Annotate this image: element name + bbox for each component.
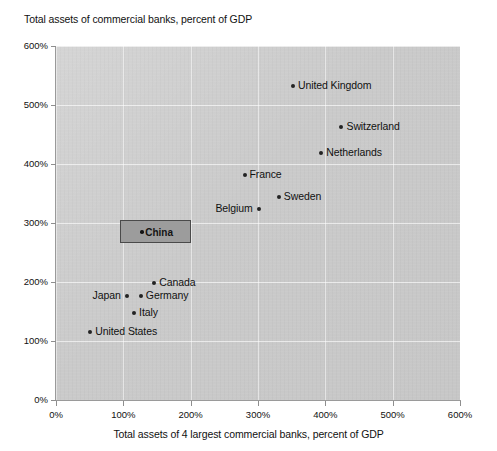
y-axis-tick-label: 300% xyxy=(4,217,48,228)
y-axis-tick-label: 400% xyxy=(4,158,48,169)
data-point-belgium xyxy=(257,207,261,211)
gridline-vertical xyxy=(393,46,394,400)
x-axis-tick-label: 600% xyxy=(430,409,490,420)
data-point-united-states xyxy=(88,330,92,334)
data-label-united-states: United States xyxy=(95,325,157,337)
data-label-united-kingdom: United Kingdom xyxy=(298,79,371,91)
x-axis-tick-label: 0% xyxy=(26,409,86,420)
plot-area: United KingdomSwitzerlandNetherlandsFran… xyxy=(56,46,460,400)
data-label-japan: Japan xyxy=(93,289,121,301)
data-label-france: France xyxy=(250,168,282,180)
data-label-germany: Germany xyxy=(146,289,188,301)
gridline-vertical xyxy=(56,46,57,400)
x-axis-tick xyxy=(460,401,461,406)
y-axis-tick xyxy=(51,105,56,106)
y-axis-tick xyxy=(51,223,56,224)
x-axis-tick-label: 400% xyxy=(295,409,355,420)
data-label-switzerland: Switzerland xyxy=(346,120,399,132)
data-point-china xyxy=(140,230,144,234)
x-axis-tick-label: 100% xyxy=(93,409,153,420)
data-label-sweden: Sweden xyxy=(284,190,321,202)
data-label-netherlands: Netherlands xyxy=(326,146,382,158)
x-axis-tick xyxy=(325,401,326,406)
data-point-france xyxy=(243,173,247,177)
data-label-belgium: Belgium xyxy=(215,202,252,214)
x-axis-tick xyxy=(258,401,259,406)
data-point-netherlands xyxy=(319,151,323,155)
x-axis-title: Total assets of 4 largest commercial ban… xyxy=(0,428,497,440)
data-point-japan xyxy=(125,294,129,298)
data-point-united-kingdom xyxy=(291,84,295,88)
gridline-vertical xyxy=(258,46,259,400)
y-axis-tick-label: 100% xyxy=(4,335,48,346)
data-label-italy: Italy xyxy=(139,306,158,318)
y-axis-tick xyxy=(51,341,56,342)
data-point-switzerland xyxy=(339,125,343,129)
data-label-canada: Canada xyxy=(159,276,195,288)
data-point-sweden xyxy=(277,195,281,199)
data-point-canada xyxy=(152,281,156,285)
y-axis-title: Total assets of commercial banks, percen… xyxy=(24,13,252,25)
x-axis-tick-label: 200% xyxy=(161,409,221,420)
gridline-vertical xyxy=(325,46,326,400)
x-axis-tick-label: 300% xyxy=(228,409,288,420)
data-point-italy xyxy=(132,311,136,315)
x-axis-tick xyxy=(191,401,192,406)
y-axis-tick-label: 0% xyxy=(4,394,48,405)
gridline-vertical xyxy=(460,46,461,400)
x-axis-tick-label: 500% xyxy=(363,409,423,420)
scatter-chart: Total assets of commercial banks, percen… xyxy=(0,0,497,451)
y-axis-tick-label: 200% xyxy=(4,276,48,287)
y-axis-tick-label: 500% xyxy=(4,99,48,110)
y-axis-tick xyxy=(51,164,56,165)
x-axis-tick xyxy=(393,401,394,406)
data-label-china: China xyxy=(145,227,173,238)
y-axis-tick xyxy=(51,46,56,47)
data-point-germany xyxy=(139,294,143,298)
y-axis-tick xyxy=(51,282,56,283)
y-axis-tick-label: 600% xyxy=(4,40,48,51)
x-axis-tick xyxy=(56,401,57,406)
x-axis-tick xyxy=(123,401,124,406)
